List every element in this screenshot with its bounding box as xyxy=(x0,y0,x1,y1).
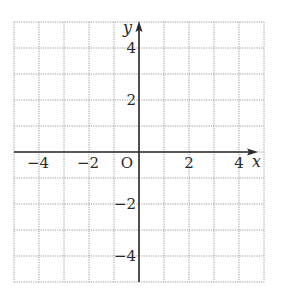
y-tick-label: 2 xyxy=(126,91,136,109)
y-tick-label: 4 xyxy=(126,39,136,57)
x-tick-label: 2 xyxy=(184,154,194,172)
origin-label: O xyxy=(121,154,133,172)
axis-labels: xyO−4−22442−2−4 xyxy=(27,18,261,265)
x-axis-name: x xyxy=(252,152,261,171)
y-tick-label: −4 xyxy=(114,247,136,265)
y-axis-name: y xyxy=(122,18,133,37)
x-tick-label: −4 xyxy=(27,154,49,172)
y-tick-label: −2 xyxy=(114,195,136,213)
x-tick-label: 4 xyxy=(234,154,244,172)
axes xyxy=(14,21,258,282)
coordinate-plane: xyO−4−22442−2−4 xyxy=(0,0,281,293)
x-tick-label: −2 xyxy=(77,154,99,172)
